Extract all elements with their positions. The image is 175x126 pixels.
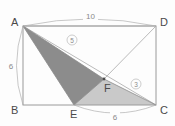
vertex-label-d: D — [160, 16, 168, 28]
vertex-label-b: B — [11, 104, 18, 116]
geometry-figure: 5 3 10 6 6 A B C D E F — [0, 0, 175, 126]
dimension-label-bottom: 6 — [113, 113, 118, 122]
vertex-label-a: A — [11, 16, 19, 28]
point-f-marker — [103, 78, 106, 81]
dimension-label-top: 10 — [86, 12, 95, 21]
segment-df — [104, 26, 156, 79]
vertex-label-f: F — [104, 82, 111, 94]
segment-label-af: 5 — [70, 37, 74, 44]
vertex-label-c: C — [160, 104, 168, 116]
segment-label-fc: 3 — [134, 81, 138, 88]
dimension-arc-left — [17, 26, 24, 105]
figure-canvas: 5 3 10 6 6 A B C D E F — [0, 0, 175, 126]
dimension-label-left: 6 — [9, 62, 14, 71]
vertex-label-e: E — [70, 108, 77, 120]
